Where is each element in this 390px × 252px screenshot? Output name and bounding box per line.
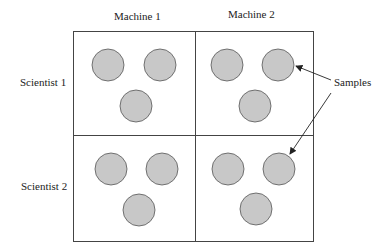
sample-circle	[239, 90, 271, 122]
cell-scientist1-machine2	[211, 49, 294, 122]
sample-circle	[211, 49, 243, 81]
column-label-machine-1: Machine 1	[114, 10, 161, 22]
sample-circle	[240, 193, 272, 225]
cell-scientist1-machine1	[92, 49, 176, 122]
row-label-scientist-2: Scientist 2	[21, 180, 67, 192]
diagram-canvas	[0, 0, 390, 252]
cell-scientist2-machine2	[212, 153, 295, 225]
sample-circle	[262, 49, 294, 81]
sample-circle	[146, 153, 178, 185]
sample-circle	[92, 49, 124, 81]
sample-circle	[144, 49, 176, 81]
sample-circle	[95, 153, 127, 185]
cell-scientist2-machine1	[95, 153, 178, 226]
sample-circle	[263, 153, 295, 185]
row-label-scientist-1: Scientist 1	[20, 76, 66, 88]
arrow-to-sample-2	[290, 93, 331, 154]
sample-circle	[120, 90, 152, 122]
column-label-machine-2: Machine 2	[228, 8, 275, 20]
sample-circle	[212, 153, 244, 185]
sample-circle	[123, 194, 155, 226]
annotation-label-samples: Samples	[334, 76, 371, 88]
